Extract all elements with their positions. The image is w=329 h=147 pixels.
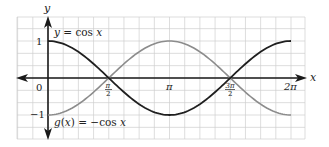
- y-tick-neg1-label: −1: [30, 109, 45, 120]
- x-tick-2pi-label: 2π: [283, 81, 297, 92]
- cos-curve-label: y = cos x: [53, 26, 102, 38]
- labels: y x 0 1 −1 π 2 π 3π 2 2π y = cos x g(x) …: [30, 2, 317, 128]
- negcos-curve-label: g(x) = −cos x: [54, 116, 126, 128]
- x-tick-pi-label: π: [165, 81, 173, 92]
- origin-label: 0: [36, 82, 42, 93]
- y-tick-1-label: 1: [36, 36, 42, 47]
- y-axis-label: y: [43, 2, 51, 15]
- x-tick-3pi-half-den: 2: [228, 90, 232, 98]
- cosine-graph: y x 0 1 −1 π 2 π 3π 2 2π y = cos x g(x) …: [0, 0, 329, 147]
- x-tick-3pi-half-num: 3π: [226, 82, 235, 90]
- x-axis-label: x: [310, 71, 317, 84]
- x-tick-pi-half-num: π: [105, 82, 111, 90]
- x-tick-pi-half-den: 2: [106, 90, 110, 98]
